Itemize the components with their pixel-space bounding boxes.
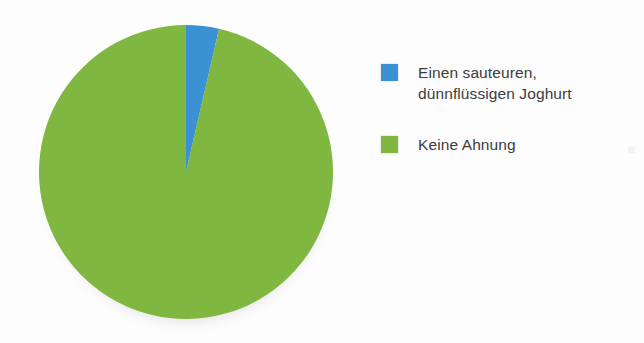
legend-item-0[interactable]: Einen sauteuren, dünnflüssigen Joghurt: [381, 62, 631, 104]
scan-artifact: [628, 147, 635, 153]
legend-swatch-green: [381, 136, 398, 153]
pie-chart: [39, 25, 333, 319]
legend-label-0: Einen sauteuren, dünnflüssigen Joghurt: [418, 62, 572, 104]
legend-label-1: Keine Ahnung: [418, 134, 516, 155]
pie-slices: [39, 25, 333, 319]
pie-chart-figure: Einen sauteuren, dünnflüssigen Joghurt K…: [0, 0, 644, 343]
pie-slice-1[interactable]: [39, 25, 333, 319]
legend-swatch-blue: [381, 64, 398, 81]
chart-legend: Einen sauteuren, dünnflüssigen Joghurt K…: [381, 62, 631, 185]
legend-item-1[interactable]: Keine Ahnung: [381, 134, 631, 155]
